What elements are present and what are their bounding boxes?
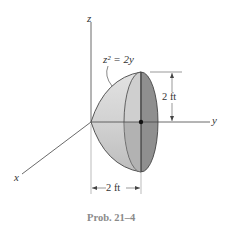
z-axis-label: z xyxy=(87,13,91,24)
height-dimension-label: 2 ft xyxy=(162,92,176,103)
centroid-point xyxy=(139,120,143,124)
diagram-figure: z y x z² = 2y 2 ft 2 ft Prob. 21–4 xyxy=(0,0,230,231)
paraboloid-drawing xyxy=(0,0,230,231)
y-axis-label: y xyxy=(212,115,217,126)
equation-label: z² = 2y xyxy=(103,54,134,65)
equation-leader xyxy=(107,66,112,86)
x-axis-label: x xyxy=(14,172,19,183)
figure-caption: Prob. 21–4 xyxy=(87,213,135,224)
x-axis xyxy=(22,122,91,174)
width-dimension-label: 2 ft xyxy=(106,183,120,194)
